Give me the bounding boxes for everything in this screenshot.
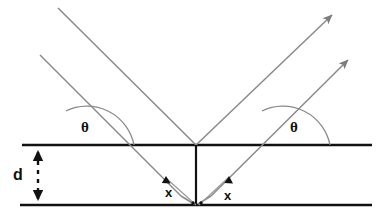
path-x-right-label: x	[224, 189, 231, 202]
d-arrow-head-up	[33, 150, 43, 161]
outgoing-ray-upper	[196, 15, 332, 145]
d-arrow-head-down	[33, 190, 43, 201]
incoming-rays	[40, 8, 196, 204]
outgoing-rays	[196, 15, 348, 204]
d-spacing-label: d	[13, 167, 23, 183]
d-spacing-arrow	[33, 150, 43, 201]
incoming-ray-lower	[40, 55, 181, 196]
diagram-canvas: θ θ d x x	[0, 0, 387, 223]
x-left-foot-dot	[191, 201, 194, 204]
path-difference-markers	[162, 176, 233, 205]
path-x-left-label: x	[165, 186, 172, 199]
theta-right-label: θ	[290, 120, 298, 135]
outgoing-ray-lower	[211, 60, 348, 196]
x-right-foot-dot	[199, 201, 202, 204]
theta-left-label: θ	[81, 120, 89, 135]
incoming-ray-upper	[58, 8, 196, 145]
bragg-diffraction-svg	[0, 0, 387, 223]
